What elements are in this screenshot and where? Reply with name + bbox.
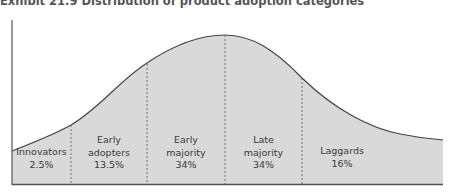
label-early-adopters: Early adopters 13.5% bbox=[71, 134, 147, 172]
label-laggards: Laggards 16% bbox=[302, 145, 382, 170]
label-late-majority: Late majority 34% bbox=[225, 134, 302, 172]
label-early-majority: Early majority 34% bbox=[147, 134, 225, 172]
label-innovators: Innovators 2.5% bbox=[12, 146, 71, 171]
